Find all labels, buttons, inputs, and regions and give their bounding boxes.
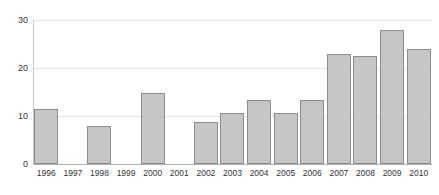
bar-slot [379, 20, 406, 164]
x-tick-label-2008: 2008 [356, 168, 375, 178]
bar-chart: 0102030 19961997199819992000200120022003… [0, 0, 439, 195]
bar-slot [326, 20, 353, 164]
bar [87, 126, 111, 164]
y-tick-label-20: 20 [18, 63, 28, 73]
bar-slot [246, 20, 273, 164]
x-tick-label-2007: 2007 [329, 168, 348, 178]
x-tick-label-2009: 2009 [383, 168, 402, 178]
y-tick-label-10: 10 [18, 111, 28, 121]
y-tick-label-0: 0 [23, 159, 28, 169]
bar [194, 122, 218, 164]
x-tick-label-1999: 1999 [117, 168, 136, 178]
x-tick-label-2003: 2003 [223, 168, 242, 178]
x-axis-labels: 1996199719981999200020012002200320042005… [33, 168, 432, 188]
bar-slot [113, 20, 140, 164]
bar [353, 56, 377, 164]
x-tick-label-2002: 2002 [196, 168, 215, 178]
gridline-0 [33, 164, 432, 165]
y-tick-label-30: 30 [18, 15, 28, 25]
bar [274, 113, 298, 164]
bar-slot [86, 20, 113, 164]
bar-slot [405, 20, 432, 164]
bar-slot [219, 20, 246, 164]
x-tick-label-1997: 1997 [63, 168, 82, 178]
x-tick-label-1996: 1996 [37, 168, 56, 178]
bar [407, 49, 431, 164]
bar-slot [352, 20, 379, 164]
bar-slot [166, 20, 193, 164]
x-tick-label-2010: 2010 [409, 168, 428, 178]
x-tick-label-1998: 1998 [90, 168, 109, 178]
bar-series [33, 20, 432, 164]
x-tick-label-2001: 2001 [170, 168, 189, 178]
x-tick-label-2004: 2004 [250, 168, 269, 178]
y-axis-labels: 0102030 [0, 0, 28, 195]
x-tick-label-2006: 2006 [303, 168, 322, 178]
bar-slot [33, 20, 60, 164]
bar-slot [139, 20, 166, 164]
bar [327, 54, 351, 164]
bar [380, 30, 404, 164]
bar-slot [193, 20, 220, 164]
bar-slot [60, 20, 87, 164]
bar [300, 100, 324, 164]
bar [220, 113, 244, 164]
bar [141, 93, 165, 164]
bar [34, 109, 58, 164]
x-tick-label-2000: 2000 [143, 168, 162, 178]
bar-slot [272, 20, 299, 164]
bar [247, 100, 271, 164]
x-tick-label-2005: 2005 [276, 168, 295, 178]
bar-slot [299, 20, 326, 164]
